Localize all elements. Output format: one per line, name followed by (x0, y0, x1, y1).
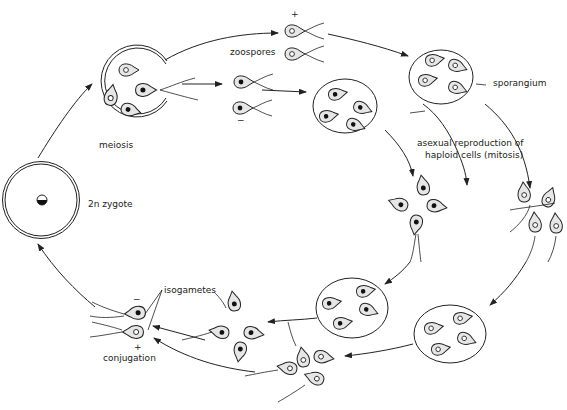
label-isogametes: isogametes (164, 285, 216, 296)
diagram-graphics (0, 0, 567, 410)
sign-gamete-minus: − (133, 294, 141, 304)
sign-zoospore-minus: − (237, 115, 245, 125)
sporangium-minus-lower (316, 278, 388, 338)
sporangium-pointer (476, 84, 486, 85)
sign-gamete-plus: + (134, 342, 142, 352)
sign-zoospore-plus: + (291, 9, 299, 19)
label-zoospores: zoospores (230, 47, 275, 58)
label-sporangium: sporangium (493, 78, 547, 89)
label-zygote: 2n zygote (88, 199, 133, 210)
zoospores-minus (233, 74, 273, 116)
conjugating-isogametes (90, 290, 162, 338)
released-cells-plus (510, 182, 563, 262)
meiosis-cyst (101, 45, 198, 119)
label-asexual-line1: asexual reproduction of (417, 138, 523, 149)
label-asexual-line2: haploid cells (mitosis) (425, 150, 523, 161)
life-cycle-diagram: zoospores meiosis sporangium asexual rep… (0, 0, 567, 410)
zygote (3, 162, 80, 239)
released-cells-minus (387, 174, 448, 262)
label-meiosis: meiosis (99, 140, 133, 151)
sporangium-plus-lower (414, 305, 486, 363)
label-conjugation: conjugation (103, 353, 156, 364)
sporangium-minus-upper (313, 79, 377, 134)
zoospores-plus (285, 23, 324, 62)
sporangium-plus (409, 50, 473, 104)
gametes-minus (182, 290, 265, 363)
